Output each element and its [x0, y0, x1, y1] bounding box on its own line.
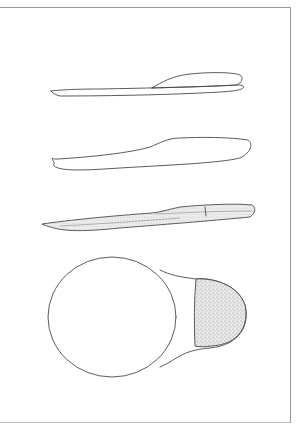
side-view-shaded: [42, 204, 255, 230]
side-view-layered: [51, 73, 244, 96]
insole-sketch-canvas: [0, 0, 298, 427]
side-view-outline: [52, 137, 251, 170]
top-view-heel-cup: [48, 257, 246, 377]
